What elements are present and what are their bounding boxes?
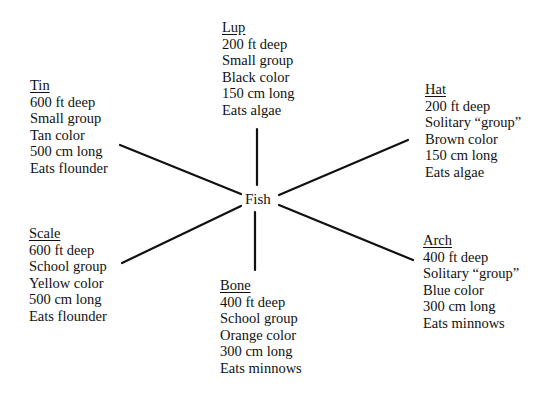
node-length: 150 cm long xyxy=(222,85,295,102)
node-group: School group xyxy=(220,310,302,327)
node-length: 300 cm long xyxy=(423,298,519,315)
node-title: Hat xyxy=(425,81,521,98)
node-diet: Eats minnows xyxy=(423,315,519,332)
node-color: Brown color xyxy=(425,131,521,148)
node-diet: Eats flounder xyxy=(29,308,107,325)
node-diet: Eats algae xyxy=(222,102,295,119)
line-to-scale xyxy=(122,206,241,263)
node-color: Black color xyxy=(222,69,295,86)
node-group: Small group xyxy=(222,52,295,69)
node-lup: Lup 200 ft deep Small group Black color … xyxy=(222,19,295,119)
node-group: School group xyxy=(29,258,107,275)
node-depth: 400 ft deep xyxy=(220,294,302,311)
node-length: 150 cm long xyxy=(425,147,521,164)
node-depth: 400 ft deep xyxy=(423,249,519,266)
node-color: Tan color xyxy=(30,127,108,144)
node-color: Orange color xyxy=(220,327,302,344)
node-diet: Eats algae xyxy=(425,164,521,181)
node-group: Solitary “group” xyxy=(423,265,519,282)
node-depth: 600 ft deep xyxy=(29,242,107,259)
node-length: 500 cm long xyxy=(29,291,107,308)
node-length: 300 cm long xyxy=(220,343,302,360)
node-title: Lup xyxy=(222,19,295,36)
center-label: Fish xyxy=(245,191,271,207)
line-to-arch xyxy=(279,205,413,260)
node-scale: Scale 600 ft deep School group Yellow co… xyxy=(29,225,107,325)
line-to-hat xyxy=(279,140,408,195)
node-diet: Eats minnows xyxy=(220,360,302,377)
node-color: Blue color xyxy=(423,282,519,299)
node-title: Tin xyxy=(30,77,108,94)
center-node-fish: Fish xyxy=(245,191,271,207)
node-depth: 200 ft deep xyxy=(222,36,295,53)
node-tin: Tin 600 ft deep Small group Tan color 50… xyxy=(30,77,108,177)
node-depth: 600 ft deep xyxy=(30,94,108,111)
node-group: Small group xyxy=(30,110,108,127)
node-title: Scale xyxy=(29,225,107,242)
node-color: Yellow color xyxy=(29,275,107,292)
node-diet: Eats flounder xyxy=(30,160,108,177)
node-group: Solitary “group” xyxy=(425,114,521,131)
node-arch: Arch 400 ft deep Solitary “group” Blue c… xyxy=(423,232,519,332)
node-depth: 200 ft deep xyxy=(425,98,521,115)
node-hat: Hat 200 ft deep Solitary “group” Brown c… xyxy=(425,81,521,181)
node-bone: Bone 400 ft deep School group Orange col… xyxy=(220,277,302,377)
line-to-tin xyxy=(120,145,241,194)
node-length: 500 cm long xyxy=(30,143,108,160)
node-title: Bone xyxy=(220,277,302,294)
node-title: Arch xyxy=(423,232,519,249)
